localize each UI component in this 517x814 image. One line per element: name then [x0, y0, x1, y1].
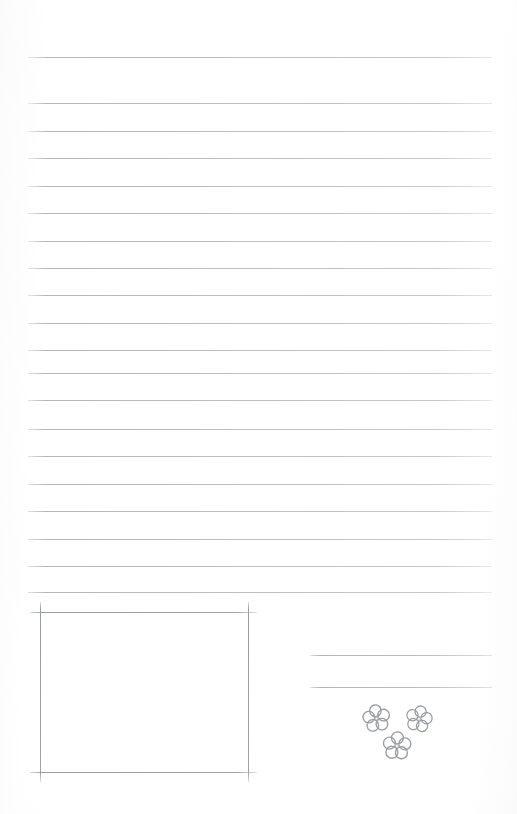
ruled-line — [28, 484, 492, 485]
flower-doodle-left-icon — [360, 702, 393, 735]
ruled-line — [28, 295, 492, 296]
flower-doodle-bottom-icon — [381, 730, 413, 762]
flower-icon — [381, 730, 413, 762]
ruled-line — [28, 400, 492, 401]
ruled-line — [28, 213, 492, 214]
ruled-line — [28, 131, 492, 132]
ruled-line — [28, 429, 492, 430]
ruled-line — [28, 592, 492, 593]
frame-left-rule — [40, 602, 41, 782]
frame-top-rule — [30, 612, 257, 613]
ruled-line — [28, 566, 492, 567]
frame-bottom-rule — [30, 772, 257, 773]
ruled-line — [28, 511, 492, 512]
ruled-line — [28, 456, 492, 457]
ruled-line — [28, 350, 492, 351]
caption-line — [310, 687, 492, 688]
frame-right-rule — [248, 602, 249, 782]
ruled-line — [28, 186, 492, 187]
caption-line — [310, 655, 492, 656]
ruled-line — [28, 158, 492, 159]
journal-page — [0, 0, 517, 814]
ruled-line — [28, 373, 492, 374]
ruled-line — [28, 268, 492, 269]
ruled-line — [28, 323, 492, 324]
ruled-line — [28, 103, 492, 104]
ruled-line — [28, 57, 492, 58]
flower-icon — [360, 702, 393, 735]
ruled-line — [28, 241, 492, 242]
ruled-line — [28, 539, 492, 540]
paper-texture-overlay — [0, 0, 517, 814]
